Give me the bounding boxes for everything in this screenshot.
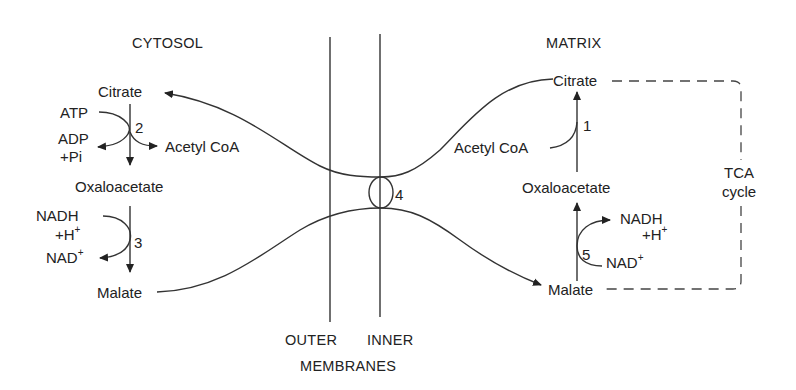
cytosol-atp: ATP [60, 104, 88, 121]
nadh-nad-arrow [100, 216, 130, 258]
cytosol-acetyl-coa: Acetyl CoA [165, 138, 239, 155]
inner-membrane-label: INNER [367, 332, 414, 348]
shuttle-diagram: CYTOSOL MATRIX OUTER INNER MEMBRANES 4 C… [0, 0, 796, 390]
cytosol-malate: Malate [97, 284, 142, 301]
matrix-oxaloacetate: Oxaloacetate [522, 179, 610, 196]
matrix-citrate: Citrate [553, 72, 597, 89]
cytosol-citrate: Citrate [98, 83, 142, 100]
outer-membrane-label: OUTER [285, 332, 337, 348]
cytosol-label: CYTOSOL [132, 35, 203, 51]
cytosol-pi: +Pi [60, 148, 82, 165]
citrate-transport-curve [165, 79, 553, 177]
matrix-h-plus: +H+ [642, 224, 668, 243]
transporter-ellipse [369, 177, 393, 208]
acetyl-coa-input-curve [550, 122, 577, 148]
cytosol-nad: NAD+ [46, 247, 84, 266]
step-5-label: 5 [582, 246, 590, 263]
matrix-nad: NAD+ [606, 252, 644, 271]
cytosol-h-plus: +H+ [55, 224, 81, 243]
cycle-label: cycle [722, 183, 756, 200]
membranes-caption: MEMBRANES [300, 358, 396, 374]
step-3-label: 3 [134, 234, 142, 251]
atp-adp-arrow [98, 112, 129, 147]
matrix-acetyl-coa: Acetyl CoA [454, 139, 528, 156]
matrix-label: MATRIX [546, 35, 602, 51]
tca-label: TCA [724, 164, 754, 181]
malate-transport-curve [157, 208, 541, 292]
step-4-label: 4 [395, 186, 403, 203]
cytosol-adp: ADP [58, 130, 89, 147]
step-1-label: 1 [583, 117, 591, 134]
cytosol-nadh: NADH [36, 207, 79, 224]
matrix-malate: Malate [548, 281, 593, 298]
cytosol-oxaloacetate: Oxaloacetate [75, 178, 163, 195]
matrix-nadh: NADH [620, 210, 663, 227]
step-2-label: 2 [135, 119, 143, 136]
